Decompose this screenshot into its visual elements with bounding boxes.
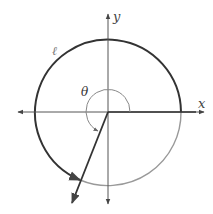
diagram-canvas: y x θ ℓ [0, 0, 213, 214]
arc-label: ℓ [52, 44, 57, 58]
y-axis-label: y [112, 9, 121, 24]
terminal-ray [72, 112, 108, 203]
angle-label: θ [81, 85, 89, 99]
x-axis-label: x [198, 96, 206, 111]
circle-arc-remaining [80, 112, 181, 186]
